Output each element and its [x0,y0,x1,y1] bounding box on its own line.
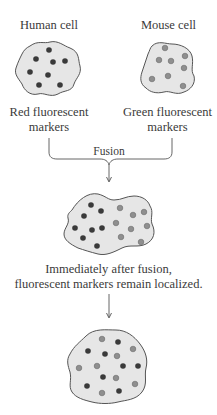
human-cell [15,42,80,96]
human-cell-title: Human cell [0,18,98,33]
hybrid-caption-line1: Immediately after fusion, [0,262,217,277]
human-caption-line1: Red fluorescent [0,105,98,120]
mouse-cell-title: Mouse cell [120,18,217,33]
hybrid-caption-line2: fluorescent markers remain localized. [0,277,217,292]
down-arrow [107,294,112,318]
hybrid-cell-mixed [68,330,147,404]
fusion-label: Fusion [80,144,138,159]
fusion-diagram [0,0,217,415]
mouse-caption-line1: Green fluorescent [118,105,217,120]
mouse-caption-line2: markers [118,120,217,135]
mouse-cell [141,43,195,94]
hybrid-cell-early [64,194,154,255]
human-caption-line2: markers [0,120,98,135]
